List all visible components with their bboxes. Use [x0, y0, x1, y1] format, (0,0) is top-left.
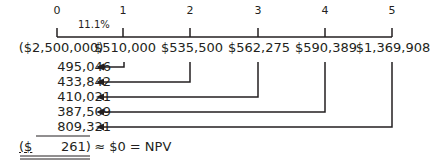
npv-amount: 261): [61, 139, 90, 154]
cash-flow-5: $1,369,908: [356, 40, 430, 55]
cash-flow-4: $590,389: [295, 40, 357, 55]
period-1-label: 1: [120, 4, 127, 17]
period-5-label: 5: [389, 4, 396, 17]
npv-result: ($261) ≈ $0 = NPV: [19, 139, 171, 154]
cash-flow-2: $535,500: [161, 40, 223, 55]
present-value-5: 809,321: [57, 119, 111, 134]
discount-rate-label: 11.1%: [78, 19, 110, 30]
period-0-label: 0: [54, 4, 61, 17]
present-value-3: 410,021: [57, 89, 111, 104]
cash-flow-3: $562,275: [228, 40, 290, 55]
npv-currency: ($: [19, 139, 61, 154]
cash-flow-1: $510,000: [94, 40, 156, 55]
period-3-label: 3: [255, 4, 262, 17]
present-value-2: 433,842: [57, 74, 111, 89]
cash-flow-0: ($2,500,000): [19, 40, 104, 55]
period-2-label: 2: [187, 4, 194, 17]
period-4-label: 4: [322, 4, 329, 17]
npv-suffix: ≈ $0 = NPV: [94, 139, 171, 154]
present-value-4: 387,509: [57, 104, 111, 119]
present-value-1: 495,046: [57, 59, 111, 74]
